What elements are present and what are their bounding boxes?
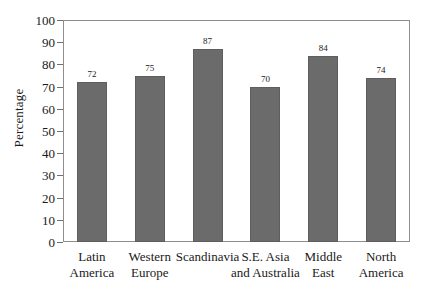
y-tick-mark [57, 20, 63, 21]
plot-area [63, 20, 410, 242]
y-tick-label: 70 [42, 81, 55, 94]
bar-value-label: 74 [361, 66, 401, 75]
y-tick-label: 40 [42, 147, 55, 160]
y-tick-label: 100 [36, 14, 56, 27]
bar-value-label: 75 [130, 64, 170, 73]
y-tick-label: 0 [49, 236, 56, 249]
y-tick-mark [57, 64, 63, 65]
y-tick-mark [57, 131, 63, 132]
bar-chart: Percentage 0102030405060708090100 727587… [0, 0, 432, 295]
y-tick-mark [57, 220, 63, 221]
y-axis-title: Percentage [11, 58, 27, 178]
y-tick-label: 80 [42, 58, 55, 71]
bar [77, 82, 107, 242]
y-tick-mark [57, 242, 63, 243]
y-tick-label: 30 [42, 169, 55, 182]
bar-value-label: 87 [188, 37, 228, 46]
y-tick-mark [57, 175, 63, 176]
bar [366, 78, 396, 242]
bar [135, 76, 165, 243]
bar [250, 87, 280, 242]
y-tick-label: 10 [42, 214, 55, 227]
y-tick-label: 90 [42, 36, 55, 49]
y-tick-mark [57, 42, 63, 43]
y-tick-mark [57, 153, 63, 154]
y-tick-mark [57, 109, 63, 110]
y-tick-mark [57, 87, 63, 88]
bar-value-label: 72 [72, 70, 112, 79]
y-tick-label: 60 [42, 103, 55, 116]
bar-value-label: 84 [303, 44, 343, 53]
bar-value-label: 70 [245, 75, 285, 84]
bar [308, 56, 338, 242]
y-tick-label: 50 [42, 125, 55, 138]
x-category-label: North America [335, 249, 427, 281]
bar [193, 49, 223, 242]
y-tick-label: 20 [42, 192, 55, 205]
y-tick-mark [57, 198, 63, 199]
